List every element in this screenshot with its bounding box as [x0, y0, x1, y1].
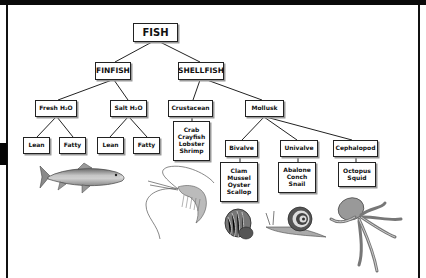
node-fish: FISH — [133, 23, 178, 42]
node-cephalopod: Cephalopod — [333, 140, 378, 157]
node-fresh-water: Fresh H₂O — [35, 100, 77, 117]
fish-illustration-icon — [36, 160, 128, 196]
list-crustacean-items: Crab Crayfish Lobster Shrimp — [173, 121, 210, 161]
node-salt-water: Salt H₂O — [110, 100, 147, 117]
node-fresh-fatty: Fatty — [59, 137, 86, 154]
list-univalve-items: Abalone Conch Snail — [278, 162, 316, 193]
fish-classification-diagram: FISH FINFISH SHELLFISH Fresh H₂O Salt H₂… — [0, 0, 426, 278]
node-bivalve: Bivalve — [225, 140, 258, 157]
octopus-illustration-icon — [325, 193, 405, 275]
list-bivalve-items: Clam Mussel Oyster Scallop — [220, 162, 258, 202]
node-finfish: FINFISH — [95, 62, 131, 80]
node-mollusk: Mollusk — [245, 100, 284, 117]
scallop-shell-illustration-icon — [222, 207, 258, 243]
node-univalve: Univalve — [280, 140, 318, 157]
node-shellfish: SHELLFISH — [178, 62, 224, 80]
node-crustacean: Crustacean — [168, 100, 213, 117]
snail-illustration-icon — [262, 205, 328, 243]
node-salt-fatty: Fatty — [133, 137, 160, 154]
node-fresh-lean: Lean — [23, 137, 50, 154]
shrimp-illustration-icon — [138, 165, 218, 241]
node-salt-lean: Lean — [97, 137, 124, 154]
list-cephalopod-items: Octopus Squid — [338, 162, 376, 187]
